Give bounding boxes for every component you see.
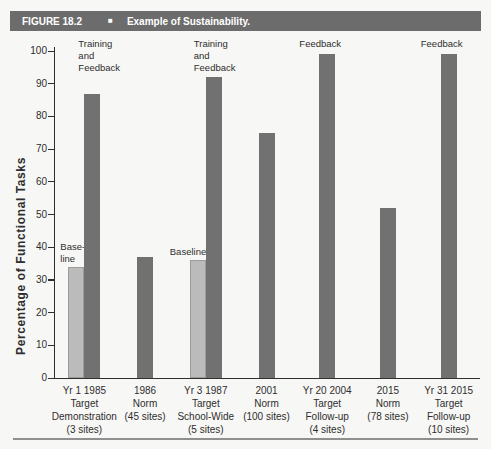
bar-intervention xyxy=(441,54,457,378)
y-axis-tick xyxy=(48,279,54,280)
y-axis-tick xyxy=(48,181,54,182)
bar-annotation: TrainingandFeedback xyxy=(194,38,236,74)
category-label-line: Demonstration xyxy=(52,410,117,423)
category-label-line: Yr 20 2004 xyxy=(303,384,352,397)
y-axis-tick-label: 90 xyxy=(16,78,47,90)
annotation-line: line xyxy=(60,253,85,265)
annotation-line: Base- xyxy=(60,241,85,253)
y-axis-tick-label: 40 xyxy=(16,241,47,253)
y-axis-tick-label: 70 xyxy=(16,143,47,155)
category-label-line: Norm xyxy=(367,397,408,410)
bar-intervention xyxy=(380,208,396,378)
category-label-line: 2001 xyxy=(243,384,290,397)
y-axis-tick xyxy=(48,312,54,313)
category-label-line: Yr 3 1987 xyxy=(177,384,234,397)
category-label-line: (5 sites) xyxy=(177,423,234,436)
bottom-rule xyxy=(13,438,478,440)
x-axis-category-label: Yr 31 2015TargetFollow-up(10 sites) xyxy=(424,384,473,436)
bar-intervention xyxy=(206,77,222,378)
y-axis-tick xyxy=(48,345,54,346)
y-axis-tick xyxy=(48,149,54,150)
annotation-line: Feedback xyxy=(421,38,463,50)
annotation-line: Feedback xyxy=(299,38,341,50)
y-axis-tick-label: 80 xyxy=(16,110,47,122)
bar-annotation: Baseline xyxy=(170,246,206,258)
chart-canvas: Percentage of Functional Tasks 010203040… xyxy=(0,0,491,449)
bar-annotation: Feedback xyxy=(421,38,463,50)
category-label-line: (100 sites) xyxy=(243,410,290,423)
y-axis-tick xyxy=(48,51,54,52)
annotation-line: Feedback xyxy=(78,62,120,74)
category-label-line: Yr 31 2015 xyxy=(424,384,473,397)
x-axis-category-label: 1986Norm(45 sites) xyxy=(125,384,166,423)
y-axis-line xyxy=(54,47,55,379)
category-label-line: (45 sites) xyxy=(125,410,166,423)
y-axis-tick xyxy=(48,83,54,84)
category-label-line: Yr 1 1985 xyxy=(52,384,117,397)
x-axis-line xyxy=(54,378,480,379)
category-label-line: School-Wide xyxy=(177,410,234,423)
x-axis-category-label: Yr 20 2004TargetFollow-up(4 sites) xyxy=(303,384,352,436)
bar-intervention xyxy=(319,54,335,378)
x-axis-category-label: Yr 1 1985TargetDemonstration(3 sites) xyxy=(52,384,117,436)
x-axis-category-label: Yr 3 1987TargetSchool-Wide(5 sites) xyxy=(177,384,234,436)
x-axis-category-label: 2015Norm(78 sites) xyxy=(367,384,408,423)
category-label-line: Target xyxy=(424,397,473,410)
y-axis-tick-label: 30 xyxy=(16,274,47,286)
bar-baseline xyxy=(68,267,84,378)
y-axis-tick-label: 60 xyxy=(16,176,47,188)
annotation-line: Feedback xyxy=(194,62,236,74)
category-label-line: Follow-up xyxy=(303,410,352,423)
category-label-line: 1986 xyxy=(125,384,166,397)
category-label-line: Norm xyxy=(243,397,290,410)
y-axis-tick-label: 50 xyxy=(16,209,47,221)
category-label-line: Target xyxy=(177,397,234,410)
figure-page: FIGURE 18.2 ■ Example of Sustainability.… xyxy=(0,0,491,449)
bar-intervention xyxy=(137,257,153,378)
category-label-line: Target xyxy=(52,397,117,410)
y-axis-tick-label: 10 xyxy=(16,339,47,351)
annotation-line: Training xyxy=(78,38,120,50)
annotation-line: Baseline xyxy=(170,246,206,258)
y-axis-tick-label: 100 xyxy=(16,45,47,57)
y-axis-tick xyxy=(48,247,54,248)
y-axis-tick xyxy=(48,378,54,379)
category-label-line: Target xyxy=(303,397,352,410)
category-label-line: Norm xyxy=(125,397,166,410)
y-axis-tick xyxy=(48,214,54,215)
category-label-line: 2015 xyxy=(367,384,408,397)
y-axis-tick-label: 0 xyxy=(16,372,47,384)
category-label-line: (10 sites) xyxy=(424,423,473,436)
category-label-line: Follow-up xyxy=(424,410,473,423)
x-axis-category-label: 2001Norm(100 sites) xyxy=(243,384,290,423)
category-label-line: (78 sites) xyxy=(367,410,408,423)
bar-annotation: TrainingandFeedback xyxy=(78,38,120,74)
bar-intervention xyxy=(259,133,275,378)
bar-intervention xyxy=(84,94,100,378)
annotation-line: and xyxy=(194,50,236,62)
y-axis-tick xyxy=(48,116,54,117)
annotation-line: Training xyxy=(194,38,236,50)
y-axis-tick-label: 20 xyxy=(16,307,47,319)
bar-annotation: Base-line xyxy=(60,241,85,265)
bar-annotation: Feedback xyxy=(299,38,341,50)
annotation-line: and xyxy=(78,50,120,62)
bar-baseline xyxy=(190,260,206,378)
category-label-line: (3 sites) xyxy=(52,423,117,436)
category-label-line: (4 sites) xyxy=(303,423,352,436)
